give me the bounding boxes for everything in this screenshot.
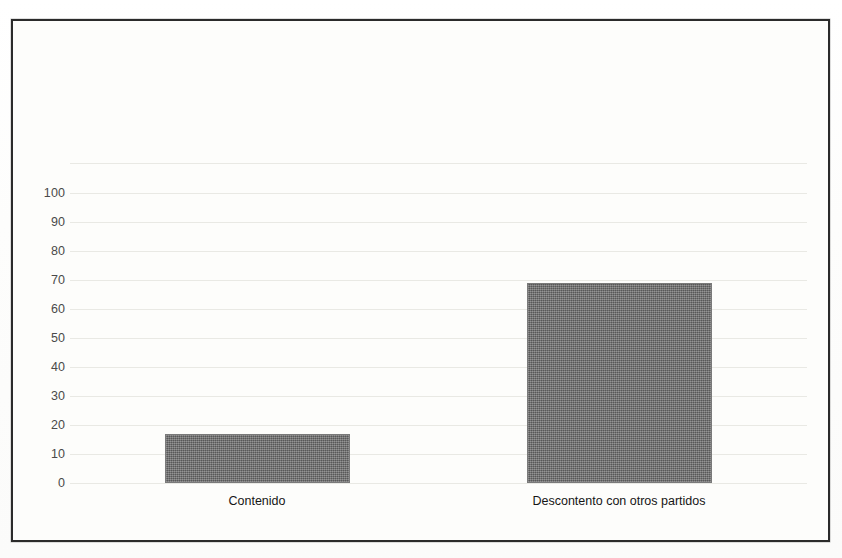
bar-series [13,21,828,540]
bar [527,283,712,483]
chart-frame: 1009080706050403020100 ContenidoDesconte… [11,19,830,542]
x-axis-category-label: Descontento con otros partidos [419,495,819,508]
chart-screenshot: 1009080706050403020100 ContenidoDesconte… [0,0,842,558]
x-axis-category-label: Contenido [57,495,457,508]
plot-area: 1009080706050403020100 ContenidoDesconte… [13,21,828,540]
bar [165,434,350,483]
